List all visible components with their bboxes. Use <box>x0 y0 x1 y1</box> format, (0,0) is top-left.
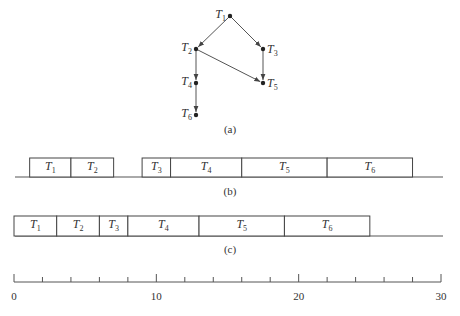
axis-tick-label: 20 <box>293 290 305 302</box>
node-label-T4: T4 <box>181 74 192 90</box>
task-precedence-graph: T1T2T3T4T5T6 <box>181 7 277 122</box>
time-axis: 0102030 <box>11 274 447 302</box>
axis-tick-label: 0 <box>11 290 17 302</box>
axis-tick-label: 10 <box>151 290 163 302</box>
caption-b: (b) <box>224 185 237 198</box>
node-T3 <box>261 47 265 51</box>
node-label-T1: T1 <box>215 7 226 23</box>
node-T4 <box>194 81 198 85</box>
scheduling-figure: T1T2T3T4T5T6 (a) T1T2T3T4T5T6 (b) T1T2T3… <box>0 0 460 316</box>
caption-a: (a) <box>224 123 237 136</box>
node-label-T2: T2 <box>181 40 192 56</box>
node-label-T5: T5 <box>267 76 278 92</box>
schedule-c: T1T2T3T4T5T6 <box>14 216 443 236</box>
schedule-b: T1T2T3T4T5T6 <box>15 158 443 177</box>
node-T2 <box>194 47 198 51</box>
node-T5 <box>261 81 265 85</box>
node-label-T3: T3 <box>267 42 278 58</box>
edge-T2-T5 <box>196 49 260 82</box>
axis-tick-label: 30 <box>436 290 448 302</box>
edge-T1-T3 <box>230 16 261 47</box>
node-T1 <box>228 14 232 18</box>
caption-c: (c) <box>224 243 237 256</box>
node-label-T6: T6 <box>181 106 192 122</box>
node-T6 <box>194 113 198 117</box>
